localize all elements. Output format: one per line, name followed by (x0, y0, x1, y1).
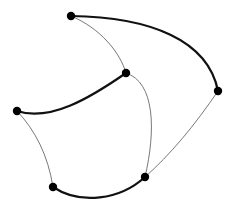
node-c[interactable] (13, 107, 21, 115)
edge-b-c (17, 73, 126, 114)
edge-c-e (17, 111, 53, 187)
node-f[interactable] (141, 173, 149, 181)
node-a[interactable] (67, 12, 75, 20)
graph-diagram (0, 0, 237, 209)
edge-d-f (145, 91, 218, 177)
node-e[interactable] (49, 183, 57, 191)
node-b[interactable] (122, 69, 130, 77)
nodes (13, 12, 222, 191)
edges (17, 16, 218, 198)
edge-b-f (126, 73, 151, 177)
edge-a-b (71, 16, 126, 73)
edge-e-f (53, 177, 145, 198)
edge-a-d (71, 16, 218, 91)
node-d[interactable] (214, 87, 222, 95)
